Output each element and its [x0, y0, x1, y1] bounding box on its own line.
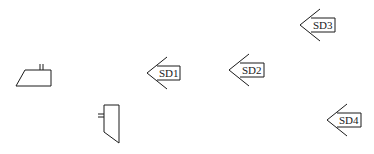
diagram-canvas: SD1 SD2 SD3 SD4 — [0, 0, 374, 154]
trapezoid-body — [104, 105, 119, 143]
sd4-label: SD4 — [339, 114, 359, 126]
trapezoid-body — [16, 70, 51, 86]
sd3-arrow: SD3 — [300, 9, 335, 41]
sd2-label: SD2 — [242, 64, 262, 76]
sd2-arrow: SD2 — [229, 54, 264, 86]
trapezoid-symbol-horizontal — [16, 64, 51, 86]
sd1-label: SD1 — [159, 67, 179, 79]
sd1-arrow: SD1 — [147, 57, 180, 89]
sd3-label: SD3 — [313, 19, 333, 31]
trapezoid-symbol-vertical — [98, 105, 119, 143]
sd4-arrow: SD4 — [327, 104, 361, 136]
